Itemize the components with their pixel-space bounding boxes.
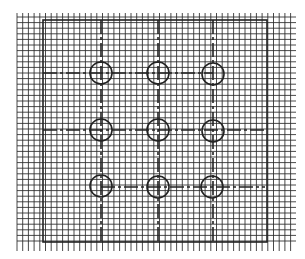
hole-circles <box>90 62 224 198</box>
graph-paper-grid <box>17 13 296 251</box>
grid-diagram <box>0 0 305 259</box>
